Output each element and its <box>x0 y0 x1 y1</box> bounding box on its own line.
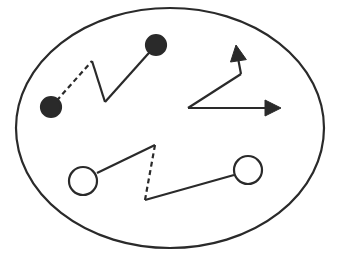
hollow-pair-group <box>69 145 262 200</box>
solid-connector <box>145 175 234 200</box>
solid-connector <box>188 74 241 108</box>
boundary-ellipse <box>16 8 324 248</box>
hollow-circle-node <box>234 156 262 184</box>
solid-connector <box>92 61 105 102</box>
filled-circle-node <box>41 97 61 117</box>
solid-connector <box>97 145 155 173</box>
arrowhead-up-icon <box>231 45 247 62</box>
boundary-ellipse-group <box>16 8 324 248</box>
arrowhead-right-icon <box>265 100 281 116</box>
filled-pair-group <box>41 35 166 117</box>
diagram-elements <box>41 35 281 200</box>
solid-connector <box>105 45 156 102</box>
dashed-connector <box>145 145 155 200</box>
filled-circle-node <box>146 35 166 55</box>
diagram-canvas <box>0 0 343 258</box>
hollow-circle-node <box>69 167 97 195</box>
arrow-pair-group <box>188 45 281 116</box>
